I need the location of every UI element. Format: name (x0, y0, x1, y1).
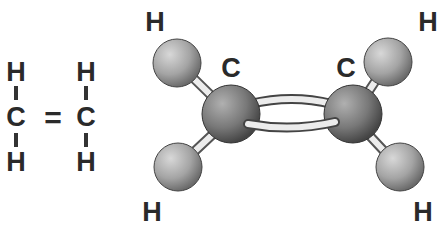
hydrogen-atom-top-left (153, 39, 201, 87)
hydrogen-atom-bottom-right (376, 143, 424, 191)
hydrogen-atom-bottom-left (154, 143, 202, 191)
label-c-left: C (221, 55, 241, 82)
carbon-atom-left (202, 85, 260, 143)
hydrogen-atom-top-right (364, 38, 412, 86)
double-bond (250, 99, 332, 104)
ball-and-stick-model (0, 0, 445, 229)
carbon-atom-right (324, 85, 382, 143)
label-h-top-left: H (145, 9, 165, 36)
label-h-top-right: H (418, 9, 438, 36)
label-h-bottom-right: H (413, 199, 433, 226)
label-c-right: C (336, 55, 356, 82)
label-h-bottom-left: H (142, 199, 162, 226)
